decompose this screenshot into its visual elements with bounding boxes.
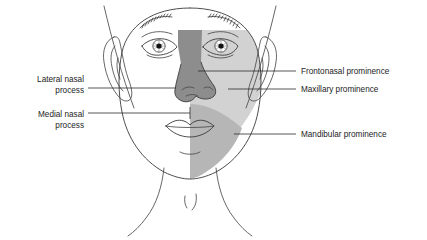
label-mandibular-prominence: Mandibular prominence <box>301 130 387 139</box>
facial-prominences-diagram: Lateral nasal process Medial nasal proce… <box>0 0 427 240</box>
label-medial-nasal-process-line1: Medial nasal <box>38 110 84 119</box>
pupil-left <box>156 43 161 48</box>
label-maxillary-prominence: Maxillary prominence <box>301 85 379 94</box>
label-medial-nasal-process-line2: process <box>55 121 84 130</box>
label-lateral-nasal-process-line2: process <box>55 86 84 95</box>
label-frontonasal-prominence: Frontonasal prominence <box>301 67 390 76</box>
pupil-right <box>218 43 223 48</box>
label-lateral-nasal-process-line1: Lateral nasal <box>37 75 84 84</box>
